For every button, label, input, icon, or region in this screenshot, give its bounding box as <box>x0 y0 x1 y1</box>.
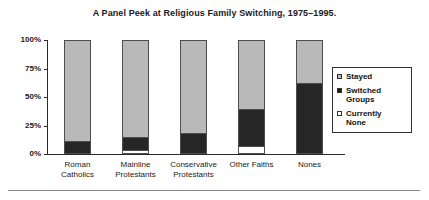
y-tick-mark <box>44 40 47 41</box>
bar-segment-stayed <box>239 41 264 110</box>
bar-segment-currently-none <box>123 151 148 153</box>
chart-legend: StayedSwitchedGroupsCurrentlyNone <box>332 67 412 133</box>
bar-roman-catholics[interactable] <box>64 40 91 154</box>
legend-item-currently-none[interactable]: CurrentlyNone <box>337 109 407 127</box>
y-tick-mark <box>44 154 47 155</box>
legend-label-line: Switched <box>346 86 381 95</box>
bar-segment-switched-groups <box>181 134 206 153</box>
y-tick-label: 100% <box>21 36 41 44</box>
bar-segment-switched-groups <box>297 84 322 153</box>
legend-label-line: Groups <box>346 95 381 104</box>
x-axis-line <box>47 154 345 155</box>
y-tick-mark <box>44 69 47 70</box>
category-label-nones: Nones <box>275 160 345 170</box>
bar-segment-switched-groups <box>239 110 264 147</box>
legend-swatch-icon <box>337 111 342 116</box>
y-tick-mark <box>44 97 47 98</box>
legend-label: CurrentlyNone <box>346 109 382 127</box>
category-label-line: Protestants <box>159 170 229 180</box>
legend-item-stayed[interactable]: Stayed <box>337 72 407 81</box>
bar-segment-stayed <box>297 41 322 84</box>
bar-mainline-protestants[interactable] <box>122 40 149 154</box>
chart-figure: A Panel Peek at Religious Family Switchi… <box>0 0 429 200</box>
y-tick-label: 50% <box>25 93 41 101</box>
y-axis-line <box>47 40 48 155</box>
chart-title: A Panel Peek at Religious Family Switchi… <box>0 8 429 18</box>
bar-segment-switched-groups <box>65 142 90 153</box>
y-tick-label: 25% <box>25 122 41 130</box>
bar-segment-stayed <box>181 41 206 134</box>
bar-segment-switched-groups <box>123 138 148 150</box>
bar-conservative-protestants[interactable] <box>180 40 207 154</box>
category-label-line: Nones <box>275 160 345 170</box>
bar-nones[interactable] <box>296 40 323 154</box>
legend-label-line: Stayed <box>346 72 372 81</box>
legend-label: SwitchedGroups <box>346 86 381 104</box>
y-tick-label: 75% <box>25 65 41 73</box>
legend-label-line: None <box>346 118 382 127</box>
bar-segment-stayed <box>123 41 148 138</box>
legend-label-line: Currently <box>346 109 382 118</box>
bar-other-faiths[interactable] <box>238 40 265 154</box>
legend-label: Stayed <box>346 72 372 81</box>
legend-swatch-icon <box>337 88 342 93</box>
bar-segment-stayed <box>65 41 90 142</box>
legend-swatch-icon <box>337 74 342 79</box>
y-tick-label: 0% <box>29 150 41 158</box>
y-tick-mark <box>44 126 47 127</box>
footer-divider <box>8 190 420 191</box>
bar-segment-currently-none <box>239 147 264 153</box>
plot-area: 100%75%50%25%0% RomanCatholicsMainlinePr… <box>47 40 345 155</box>
legend-item-switched-groups[interactable]: SwitchedGroups <box>337 86 407 104</box>
